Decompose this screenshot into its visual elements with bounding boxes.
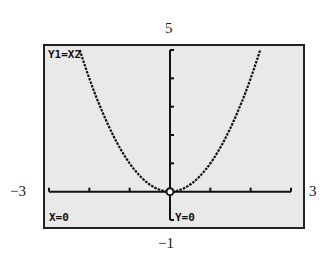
xmax-label: 3 bbox=[309, 184, 317, 199]
xmin-label: −3 bbox=[10, 184, 26, 199]
ymin-label: −1 bbox=[158, 236, 174, 251]
graph-plot bbox=[45, 46, 303, 227]
ymax-label: 5 bbox=[165, 21, 173, 36]
x-readout: X=0 bbox=[49, 212, 69, 223]
y-readout: Y=0 bbox=[175, 212, 195, 223]
equation-label: Y1=X2 bbox=[48, 49, 81, 60]
calculator-screen: Y1=X2 X=0 Y=0 bbox=[43, 44, 305, 229]
trace-cursor bbox=[167, 188, 174, 195]
